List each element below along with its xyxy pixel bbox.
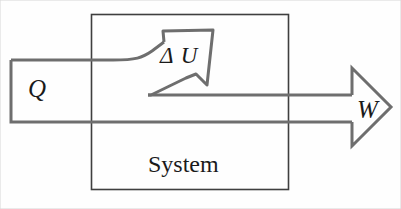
energy-flow-figure: Q Δ U W System — [0, 0, 401, 209]
work-label-w: W — [357, 97, 378, 122]
heat-label-q: Q — [28, 76, 46, 101]
internal-energy-label-delta-u: Δ U — [160, 44, 198, 67]
system-box-label: System — [148, 152, 219, 176]
heat-arrow-upper-rail — [11, 42, 164, 60]
heat-arrow-lower-rail — [11, 60, 352, 122]
figure-canvas — [0, 0, 401, 209]
